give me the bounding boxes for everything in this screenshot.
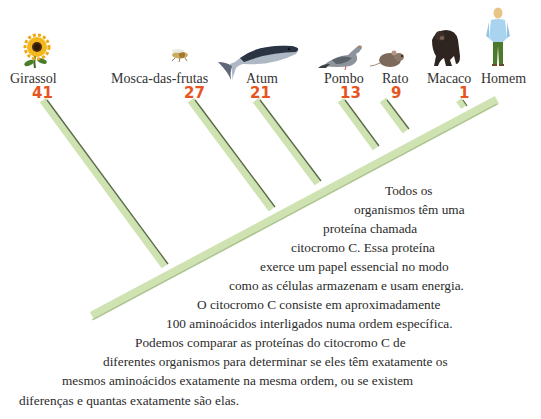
text-line: diferentes organismos para determinar se… bbox=[103, 354, 448, 370]
text-line: como as células armazenam e usam energia… bbox=[229, 278, 464, 294]
text-line: organismos têm uma bbox=[354, 202, 465, 218]
text-line: mesmos aminoácidos exatamente na mesma o… bbox=[62, 373, 413, 389]
text-line: 100 aminoácidos interligados numa ordem … bbox=[166, 316, 453, 332]
text-line: diferenças e quantas exatamente são elas… bbox=[19, 393, 239, 409]
text-line: exerce um papel essencial no modo bbox=[260, 259, 449, 275]
text-line: Todos os bbox=[385, 183, 432, 199]
text-line: Podemos comparar as proteínas do citocro… bbox=[135, 335, 406, 351]
text-line: citocromo C. Essa proteína bbox=[291, 240, 435, 256]
text-line: proteína chamada bbox=[323, 221, 417, 237]
description-paragraph: Todos os organismos têm uma proteína cha… bbox=[0, 0, 541, 419]
text-line: O citocromo C consiste em aproximadament… bbox=[197, 297, 440, 313]
